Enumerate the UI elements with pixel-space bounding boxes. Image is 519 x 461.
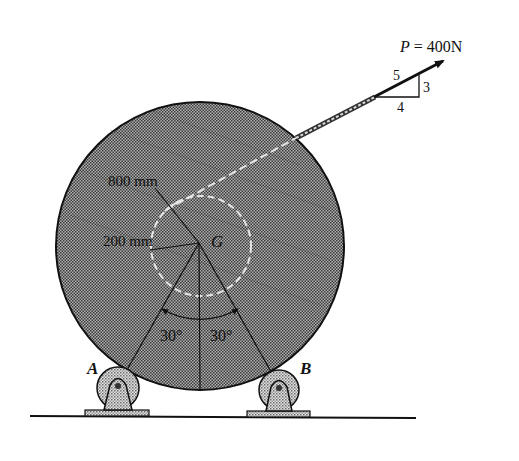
slope-rise-label: 3 <box>423 80 430 95</box>
slope-run-label: 4 <box>397 100 404 115</box>
slope-hypotenuse-label: 5 <box>393 68 400 83</box>
outer-radius-label: 800 mm <box>108 173 158 189</box>
angle-right-label: 30° <box>210 327 232 344</box>
force-arrow: P = 400N 5 3 4 <box>374 38 463 115</box>
roller-a-base-plate <box>85 410 149 416</box>
inner-radius-label: 200 mm <box>103 233 153 249</box>
force-arrow-line <box>374 61 443 97</box>
roller-b-pin <box>276 385 282 391</box>
roller-a-pin <box>115 383 121 389</box>
ground <box>30 416 416 432</box>
center-label-g: G <box>211 232 223 251</box>
roller-b-base-plate <box>247 411 310 417</box>
diagram-canvas: P = 400N 5 3 4 800 mm 200 mm G 30° 30° A… <box>0 0 519 461</box>
roller-a-label: A <box>86 359 98 378</box>
force-label: P = 400N <box>399 38 463 55</box>
roller-b-label: B <box>299 359 311 378</box>
angle-left-label: 30° <box>160 327 182 344</box>
statics-diagram: P = 400N 5 3 4 800 mm 200 mm G 30° 30° A… <box>0 0 519 461</box>
